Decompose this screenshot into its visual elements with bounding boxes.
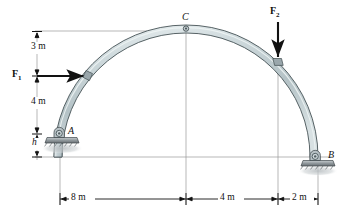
dimension-label-h: h [32,138,37,148]
support-b-pad [301,161,335,167]
dimension-label-3m: 3 m [31,42,46,52]
support-a-pad [45,138,79,144]
dimension-label-2m: 2 m [292,193,307,203]
force-f2-bearing-plate [273,59,283,66]
dimension-label-4m-horizontal: 4 m [220,193,235,203]
force-f2 [273,22,283,65]
point-label-c: C [182,12,189,22]
support-a [41,127,83,153]
support-a-shadow [41,143,83,153]
point-label-b: B [328,150,334,160]
reference-lines [35,30,332,205]
dimension-label-8m: 8 m [71,193,86,203]
arch-diagram-svg [0,0,348,222]
force-label-f2-subscript: 2 [276,11,280,19]
force-label-f1-subscript: 1 [18,74,22,82]
point-label-a: A [68,126,74,136]
force-label-f2: F2 [270,6,280,19]
hinge-c [183,26,188,31]
dimension-label-4m-vertical: 4 m [31,97,46,107]
force-label-f1: F1 [12,69,22,82]
horizontal-dimensions [60,193,318,205]
figure-canvas: 3 m 4 m h 8 m 4 m 2 m A B C F1 F2 [0,0,348,222]
